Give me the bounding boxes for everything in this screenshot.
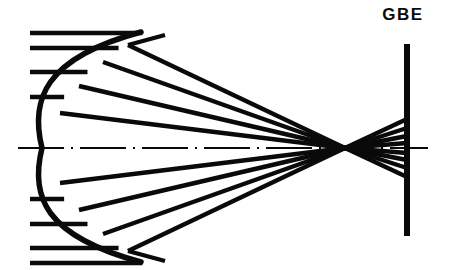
gbe-label: GBE (372, 6, 434, 23)
reflected-ray-5 (79, 148, 345, 210)
reflected-ray-2 (79, 86, 345, 148)
ray-diagram-canvas (0, 0, 449, 270)
optical-ray-diagram: GBE (0, 0, 449, 270)
